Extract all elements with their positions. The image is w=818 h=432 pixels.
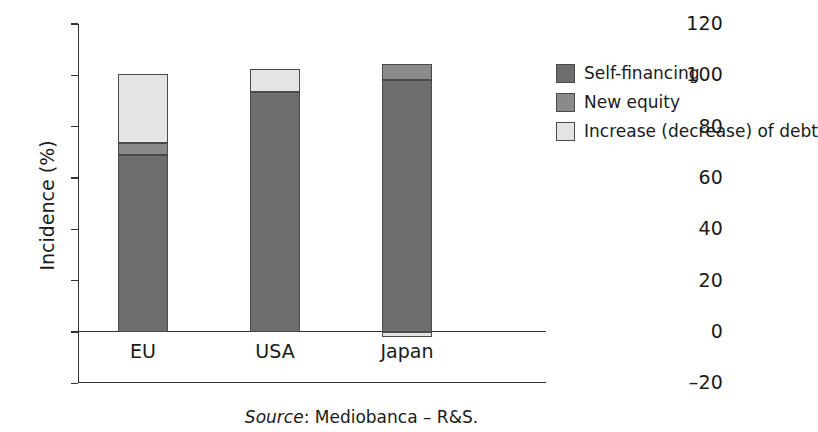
y-tick-mark-neg20	[71, 383, 78, 384]
y-tick-mark-20	[71, 280, 78, 281]
bar-segment-japan-self-financing	[382, 80, 432, 332]
legend-swatch-icon	[556, 93, 575, 112]
y-tick-label: 120	[657, 14, 723, 33]
x-axis-label-eu: EU	[73, 340, 213, 362]
y-tick-mark-0	[71, 331, 78, 332]
x-axis-label-usa: USA	[205, 340, 345, 362]
legend-swatch-icon	[556, 64, 575, 83]
y-axis-line	[78, 24, 79, 383]
y-tick-mark-80	[71, 126, 78, 127]
y-tick-label: 0	[657, 322, 723, 341]
chart-legend: Self-financingNew equityIncrease (decrea…	[556, 60, 818, 147]
legend-item-label: New equity	[584, 93, 680, 112]
y-tick-label: 20	[657, 271, 723, 290]
bar-segment-usa-increase-decrease-of-debt	[250, 69, 300, 92]
source-label: Source	[245, 407, 304, 427]
y-tick-label: 60	[657, 168, 723, 187]
bar-segment-japan-increase-decrease-of-debt-negative	[382, 332, 432, 337]
bar-segment-eu-increase-decrease-of-debt	[118, 74, 168, 143]
y-tick-mark-60	[71, 177, 78, 178]
y-tick-mark-120	[71, 23, 78, 24]
y-axis-title: Incidence (%)	[38, 81, 57, 331]
y-tick-mark-40	[71, 229, 78, 230]
bar-segment-usa-self-financing	[250, 92, 300, 332]
legend-item-label: Self-financing	[584, 64, 699, 83]
y-tick-label: 40	[657, 219, 723, 238]
bottom-axis-line	[78, 382, 546, 383]
y-tick-mark-100	[71, 75, 78, 76]
legend-swatch-icon	[556, 122, 575, 141]
legend-item: Self-financing	[556, 60, 818, 86]
legend-item: New equity	[556, 89, 818, 115]
legend-item-label: Increase (decrease) of debt	[584, 122, 818, 141]
source-note: Source: Mediobanca – R&S.	[0, 407, 723, 427]
bar-segment-eu-new-equity	[118, 143, 168, 155]
bar-segment-eu-self-financing	[118, 155, 168, 332]
y-tick-label: –20	[657, 373, 723, 392]
legend-item: Increase (decrease) of debt	[556, 118, 818, 144]
x-axis-label-japan: Japan	[337, 340, 477, 362]
bar-segment-japan-new-equity	[382, 64, 432, 81]
source-value: : Mediobanca – R&S.	[304, 407, 479, 427]
